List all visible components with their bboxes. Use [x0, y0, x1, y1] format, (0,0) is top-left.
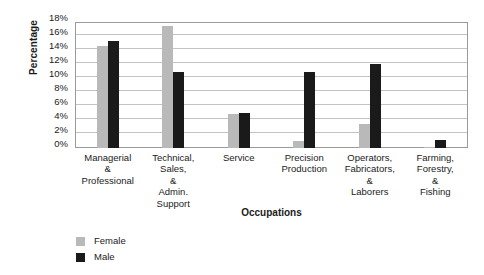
y-axis-tick-label: 16%	[10, 27, 68, 37]
x-axis-category-label: Farming, Forestry, & Fishing	[403, 152, 469, 209]
y-axis-tick-label: 10%	[10, 69, 68, 79]
legend-label: Male	[94, 252, 115, 262]
y-axis-tick-label: 6%	[10, 97, 68, 107]
legend-item-female[interactable]: Female	[76, 233, 126, 249]
legend-label: Female	[94, 236, 126, 246]
chart-legend: FemaleMale	[76, 233, 126, 265]
x-axis-title: Occupations	[75, 207, 468, 218]
y-axis-tick-label: 14%	[10, 41, 68, 51]
legend-swatch-icon	[76, 253, 85, 262]
x-axis-category-labels: Managerial & ProfessionalTechnical, Sale…	[75, 152, 468, 209]
y-axis-tick-label: 18%	[10, 13, 68, 23]
y-axis-tick-label: 12%	[10, 55, 68, 65]
y-axis-tick-label: 4%	[10, 111, 68, 121]
x-axis-category-label: Service	[206, 152, 272, 209]
legend-swatch-icon	[76, 237, 85, 246]
x-axis-category-label: Managerial & Professional	[75, 152, 141, 209]
y-axis-ticks: 0%2%4%6%8%10%12%14%16%18%	[0, 22, 484, 148]
y-axis-tick-label: 8%	[10, 83, 68, 93]
bar-chart-figure: Percentage 0%2%4%6%8%10%12%14%16%18% Man…	[0, 0, 484, 275]
x-axis-category-label: Technical, Sales, & Admin. Support	[141, 152, 207, 209]
legend-item-male[interactable]: Male	[76, 249, 126, 265]
x-axis-category-label: Precision Production	[272, 152, 338, 209]
x-axis-category-label: Operators, Fabricators, & Laborers	[337, 152, 403, 209]
y-axis-tick-label: 2%	[10, 125, 68, 135]
y-axis-tick-label: 0%	[10, 139, 68, 149]
